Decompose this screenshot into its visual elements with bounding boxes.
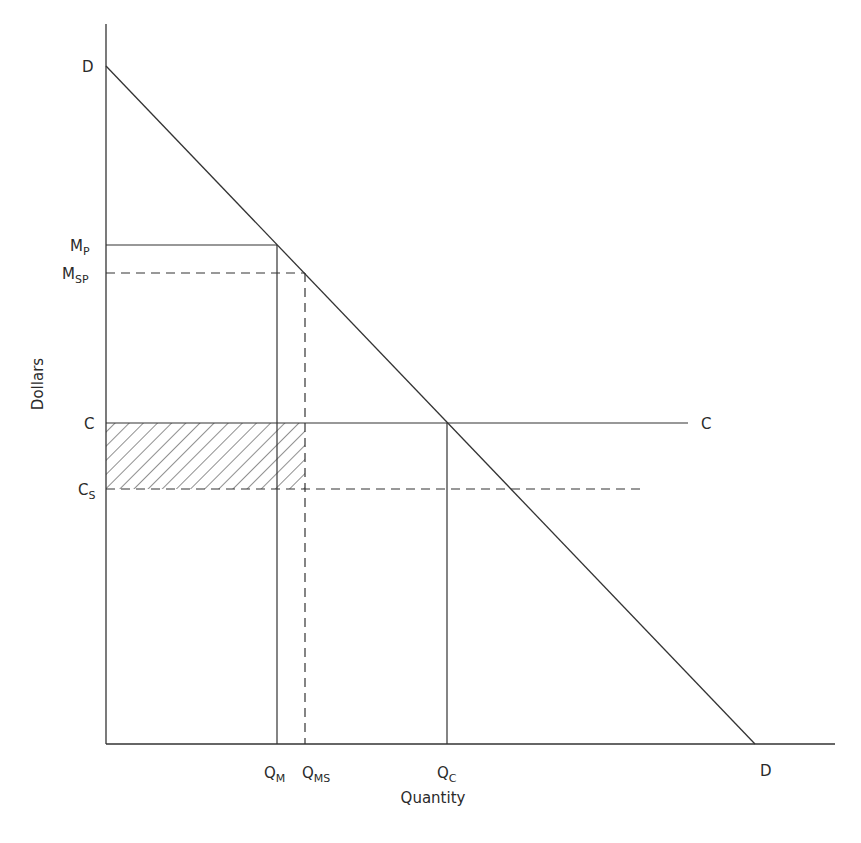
c-right-label: C	[701, 415, 711, 433]
shaded-region	[106, 423, 305, 489]
d-top-label: D	[82, 58, 94, 76]
diagram-canvas: D MP MSP C CS C QM QMS QC D Quantity Dol…	[0, 0, 861, 843]
qc-label: QC	[437, 764, 457, 785]
msp-label: MSP	[62, 265, 89, 286]
mp-label: MP	[70, 237, 90, 258]
c-left-label: C	[84, 415, 94, 433]
demand-curve	[106, 66, 755, 744]
y-axis-title: Dollars	[29, 358, 47, 410]
d-bottom-label: D	[760, 762, 772, 780]
x-axis-title: Quantity	[401, 789, 466, 807]
cs-label: CS	[78, 481, 95, 502]
qms-label: QMS	[302, 764, 330, 785]
qm-label: QM	[264, 764, 285, 785]
